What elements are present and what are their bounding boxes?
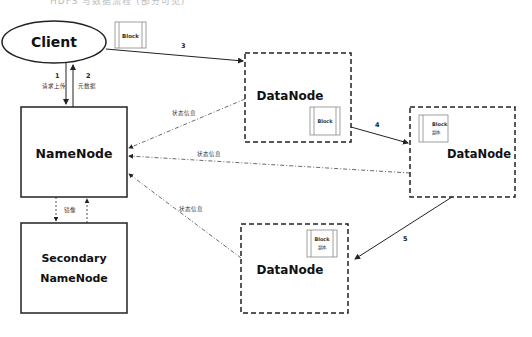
secondary-namenode: Secondary NameNode <box>21 223 127 313</box>
edge-step-5: 5 <box>355 197 452 259</box>
datanode-3-block-label: Block <box>314 236 330 242</box>
edge-status-2: 状态信息 <box>129 150 410 173</box>
datanode-2-block-label: Block <box>432 121 448 127</box>
edge-mirror: 镜像 <box>56 197 87 223</box>
client-block-label: Block <box>122 33 139 39</box>
edge-status-1: 状态信息 <box>129 99 245 148</box>
secondary-label-line1: Secondary <box>41 252 106 265</box>
mirror-text: 镜像 <box>64 206 76 214</box>
datanode-3-block-sub: 副本 <box>318 244 327 251</box>
hdfs-write-diagram: Client Block NameNode Secondary NameNode… <box>0 0 532 337</box>
edge-status-3: 状态信息 <box>129 174 241 258</box>
datanode-1-block-label: Block <box>317 118 333 124</box>
step-1-num: 1 <box>55 72 60 80</box>
namenode: NameNode <box>21 107 127 197</box>
status-3-text: 状态信息 <box>179 205 203 213</box>
datanode-3: DataNode Block 副本 <box>241 224 348 313</box>
step-4-num: 4 <box>375 121 380 129</box>
datanode-3-label: DataNode <box>257 263 324 277</box>
datanode-1: DataNode Block <box>245 53 351 142</box>
status-1-text: 状态信息 <box>172 109 196 117</box>
step-3-num: 3 <box>181 42 186 50</box>
client-block: Block <box>115 22 146 48</box>
datanode-2: DataNode Block 副本 <box>410 107 515 197</box>
step-2-num: 2 <box>86 72 91 80</box>
client-label: Client <box>31 34 77 50</box>
cut-off-heading: HDFS 写数据流程 (部分可见) <box>50 0 185 7</box>
step-1-text: 请求上传 <box>42 82 66 90</box>
edge-step-1: 1 请求上传 <box>42 62 66 104</box>
datanode-2-block-sub: 副本 <box>432 129 441 136</box>
client-node: Client <box>2 21 106 63</box>
edge-step-4: 4 <box>351 121 408 143</box>
datanode-1-label: DataNode <box>257 89 324 103</box>
namenode-label: NameNode <box>36 146 113 161</box>
step-2-text: 元数据 <box>78 82 96 90</box>
datanode-2-label: DataNode <box>447 147 511 161</box>
edge-step-2: 2 元数据 <box>73 65 96 107</box>
secondary-label-line2: NameNode <box>40 272 108 285</box>
step-5-num: 5 <box>403 235 408 243</box>
status-2-text: 状态信息 <box>197 150 221 158</box>
